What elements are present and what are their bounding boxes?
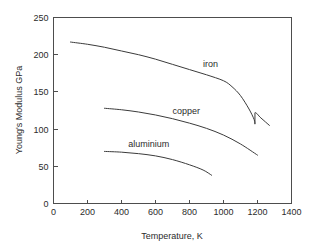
figure-root: 0200400600800100012001400 05010015020025… <box>0 0 313 252</box>
y-axis-ticks <box>54 18 58 204</box>
x-tick-label: 800 <box>182 207 197 217</box>
y-axis-title: Young's Modulus GPa <box>14 66 24 154</box>
series-label-iron: iron <box>203 59 218 69</box>
y-tick-label: 50 <box>38 162 48 172</box>
y-tick-label: 0 <box>43 199 48 209</box>
x-tick-label: 600 <box>148 207 163 217</box>
x-tick-label: 200 <box>80 207 95 217</box>
x-axis-ticks <box>54 200 292 204</box>
line-chart: 0200400600800100012001400 05010015020025… <box>0 0 313 252</box>
series-label-aluminium: aluminium <box>128 139 169 149</box>
x-tick-label: 1400 <box>281 207 301 217</box>
x-tick-label: 0 <box>51 207 56 217</box>
y-tick-label: 200 <box>33 50 48 60</box>
x-tick-label: 1200 <box>247 207 267 217</box>
y-axis-tick-labels: 050100150200250 <box>33 13 48 209</box>
series-label-copper: copper <box>173 106 201 116</box>
x-tick-label: 400 <box>114 207 129 217</box>
y-tick-label: 100 <box>33 125 48 135</box>
series-line-iron <box>71 42 270 125</box>
y-tick-label: 150 <box>33 87 48 97</box>
series-line-aluminium <box>105 151 212 175</box>
series-inline-labels: ironcopperaluminium <box>128 59 218 149</box>
x-tick-label: 1000 <box>213 207 233 217</box>
x-axis-title: Temperature, K <box>141 231 203 241</box>
y-tick-label: 250 <box>33 13 48 23</box>
x-axis-tick-labels: 0200400600800100012001400 <box>51 207 302 217</box>
series-lines <box>71 42 270 175</box>
